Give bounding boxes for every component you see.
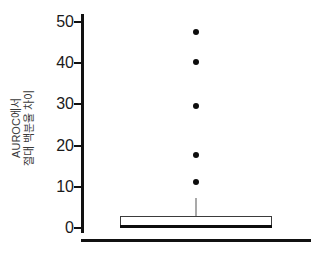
plot-area — [0, 0, 324, 255]
y-tick-mark — [74, 145, 82, 147]
outlier-point — [193, 29, 199, 35]
y-tick-mark — [74, 62, 82, 64]
outlier-point — [193, 152, 199, 158]
outlier-point — [193, 59, 199, 65]
outlier-point — [193, 179, 199, 185]
y-tick-mark — [74, 21, 82, 23]
median-line — [120, 225, 272, 228]
y-tick-mark — [74, 186, 82, 188]
box-plot-figure: AUROC에서 절대 백분율 차이 01020304050 — [0, 0, 324, 255]
y-tick-mark — [74, 227, 82, 229]
outlier-point — [193, 103, 199, 109]
y-tick-mark — [74, 103, 82, 105]
whisker-upper — [196, 198, 197, 216]
